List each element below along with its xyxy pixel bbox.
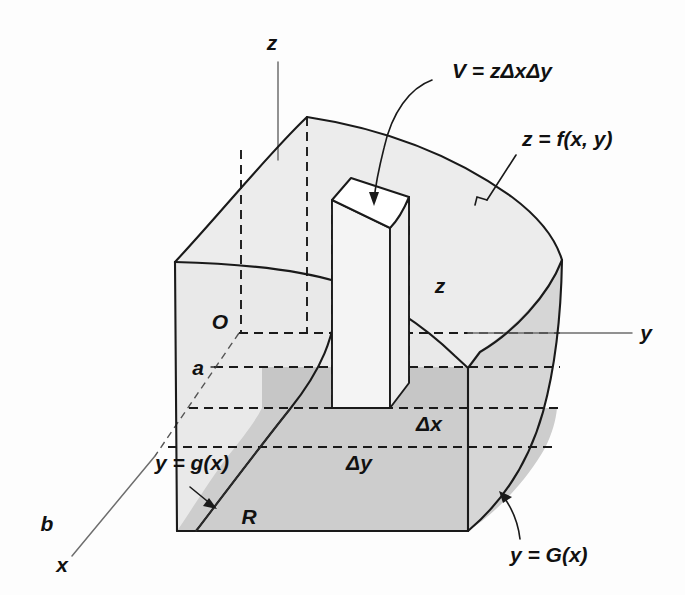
region-R-label: R <box>241 505 257 528</box>
volume-under-surface-diagram: z y x O a b R z Δx Δy V = zΔxΔy z = f(x,… <box>0 0 685 595</box>
prism-right-face <box>390 199 409 408</box>
height-z-label: z <box>434 274 446 297</box>
b-label: b <box>41 512 54 535</box>
figure-root: z y x O a b R z Δx Δy V = zΔxΔy z = f(x,… <box>0 0 685 595</box>
upper-boundary-label: y = G(x) <box>509 543 588 566</box>
volume-element-prism <box>332 178 409 408</box>
y-axis-label: y <box>639 321 653 344</box>
lower-boundary-label: y = g(x) <box>154 451 229 474</box>
delta-x-label: Δx <box>415 412 443 435</box>
a-label: a <box>192 356 204 379</box>
prism-left-face <box>332 200 390 408</box>
x-axis-label: x <box>55 553 69 576</box>
surface-equation-label: z = f(x, y) <box>521 127 612 150</box>
delta-y-label: Δy <box>345 451 373 474</box>
leader-G-curve <box>503 496 520 539</box>
z-axis-label: z <box>266 31 278 54</box>
origin-label: O <box>212 310 228 333</box>
volume-element-label: V = zΔxΔy <box>452 59 553 82</box>
x-axis-line <box>72 456 155 556</box>
